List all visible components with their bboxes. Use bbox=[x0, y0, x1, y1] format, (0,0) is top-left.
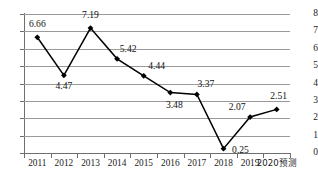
data-point-marker bbox=[194, 92, 200, 98]
data-label-8: 2.07 bbox=[229, 102, 246, 112]
data-label-6: 3.37 bbox=[197, 79, 214, 89]
data-label-2: 7.19 bbox=[82, 10, 99, 20]
line-chart: 012345678 201120122013201420152016201720… bbox=[0, 0, 318, 183]
data-label-0: 6.66 bbox=[29, 19, 46, 29]
data-label-1: 4.47 bbox=[55, 81, 72, 91]
data-point-marker bbox=[274, 106, 280, 112]
data-label-3: 5.42 bbox=[120, 44, 137, 54]
data-label-7: 0.25 bbox=[232, 145, 249, 155]
data-label-5: 3.48 bbox=[166, 100, 183, 110]
series-line bbox=[37, 28, 276, 149]
data-label-9: 2.51 bbox=[270, 91, 287, 101]
data-label-4: 4.44 bbox=[148, 61, 165, 71]
